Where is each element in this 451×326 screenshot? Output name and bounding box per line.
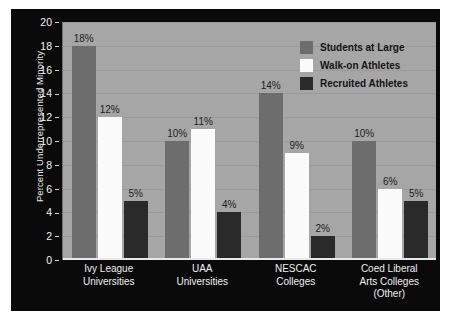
y-axis-tick-label: 4 — [13, 206, 59, 218]
bar — [378, 189, 402, 260]
legend-item-walkon: Walk-on Athletes — [300, 57, 435, 73]
bar-value-label: 10% — [167, 129, 187, 139]
bar — [311, 236, 335, 260]
legend-label: Recruited Athletes — [320, 78, 408, 89]
bar — [217, 212, 241, 260]
y-axis-tick-label: 10 — [13, 135, 59, 147]
bar-value-label: 18% — [74, 34, 94, 44]
bar — [191, 129, 215, 260]
bar-value-label: 5% — [409, 189, 423, 199]
x-axis-category-label-line: Arts Colleges — [343, 276, 437, 289]
x-axis-category-label-line: Colleges — [249, 276, 343, 289]
bar — [98, 117, 122, 260]
legend-label: Walk-on Athletes — [320, 60, 400, 71]
y-axis-tickmark — [55, 141, 59, 142]
bar-group: 10%11%4% — [157, 22, 251, 260]
x-axis-category-label-line: NESCAC — [249, 263, 343, 276]
y-axis-tickmark — [55, 117, 59, 118]
bar — [352, 141, 376, 260]
bar — [124, 201, 148, 261]
x-axis-category-label: UAAUniversities — [156, 263, 250, 288]
legend: Students at LargeWalk-on AthletesRecruit… — [300, 39, 435, 93]
y-axis-tick-label: 20 — [13, 16, 59, 28]
x-axis-category-label-line: (Other) — [343, 288, 437, 301]
x-axis-category-label-line: Universities — [62, 276, 156, 289]
bar — [285, 153, 309, 260]
legend-swatch-icon — [300, 59, 313, 72]
legend-label: Students at Large — [320, 42, 404, 53]
x-axis-category-label: NESCACColleges — [249, 263, 343, 288]
legend-swatch-icon — [300, 41, 313, 54]
y-axis-tickmark — [55, 165, 59, 166]
bar-value-label: 6% — [383, 177, 397, 187]
y-axis-tickmark — [55, 46, 59, 47]
y-axis-tickmark — [55, 260, 59, 261]
legend-item-recruited: Recruited Athletes — [300, 75, 435, 91]
y-axis-tick-label: 8 — [13, 159, 59, 171]
y-axis-tick-label: 16 — [13, 64, 59, 76]
x-axis-category-label: Coed LiberalArts Colleges(Other) — [343, 263, 437, 301]
y-axis-tick-labels: 02468101214161820 — [11, 9, 63, 311]
bar — [404, 201, 428, 261]
y-axis-tickmark — [55, 70, 59, 71]
y-axis-tick-label: 18 — [13, 40, 59, 52]
y-axis-tick-label: 12 — [13, 111, 59, 123]
x-axis-category-label-line: UAA — [156, 263, 250, 276]
y-axis-tickmark — [55, 22, 59, 23]
y-axis-tick-label: 14 — [13, 87, 59, 99]
x-axis-category-label-line: Coed Liberal — [343, 263, 437, 276]
bar — [165, 141, 189, 260]
x-axis-category-labels: Ivy LeagueUniversitiesUAAUniversitiesNES… — [62, 263, 436, 311]
bar-value-label: 2% — [316, 224, 330, 234]
bar-value-label: 9% — [290, 141, 304, 151]
x-axis-category-label-line: Ivy League — [62, 263, 156, 276]
legend-swatch-icon — [300, 77, 313, 90]
chart-root: Percent Underrepresented Minority 024681… — [0, 0, 451, 326]
y-axis-tick-label: 2 — [13, 230, 59, 242]
bar — [72, 46, 96, 260]
y-axis-tick-label: 0 — [13, 254, 59, 266]
y-axis-tickmark — [55, 94, 59, 95]
bar-value-label: 14% — [261, 81, 281, 91]
legend-item-students: Students at Large — [300, 39, 435, 55]
bar-value-label: 12% — [100, 105, 120, 115]
x-axis-category-label-line: Universities — [156, 276, 250, 289]
y-axis-tick-label: 6 — [13, 183, 59, 195]
bar-value-label: 4% — [222, 200, 236, 210]
figure-panel: Percent Underrepresented Minority 024681… — [11, 9, 440, 311]
bar-value-label: 10% — [354, 129, 374, 139]
y-axis-tickmark — [55, 189, 59, 190]
bar — [259, 93, 283, 260]
bar-group: 18%12%5% — [63, 22, 157, 260]
bar-value-label: 5% — [129, 189, 143, 199]
plot-area: 18%12%5%10%11%4%14%9%2%10%6%5% Students … — [62, 22, 436, 260]
x-axis-category-label: Ivy LeagueUniversities — [62, 263, 156, 288]
y-axis-tickmark — [55, 213, 59, 214]
y-axis-tickmark — [55, 236, 59, 237]
bar-value-label: 11% — [194, 117, 213, 127]
x-axis-baseline — [63, 258, 436, 260]
